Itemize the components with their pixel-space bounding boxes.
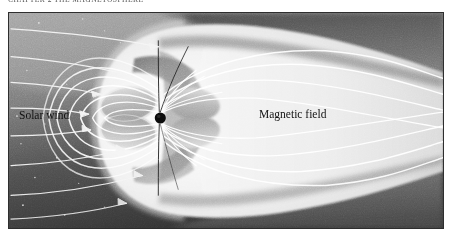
running-head: CHAPTER 2 THE MAGNETOSPHERE — [8, 0, 208, 5]
running-head-text: CHAPTER 2 THE MAGNETOSPHERE — [8, 0, 208, 3]
earth-disk — [155, 112, 166, 123]
magnetosphere-illustration — [9, 13, 443, 228]
magnetosphere-figure: Solar wind Magnetic field — [8, 12, 444, 229]
page-root: CHAPTER 2 THE MAGNETOSPHERE — [0, 0, 454, 240]
earth-highlight — [157, 115, 160, 118]
